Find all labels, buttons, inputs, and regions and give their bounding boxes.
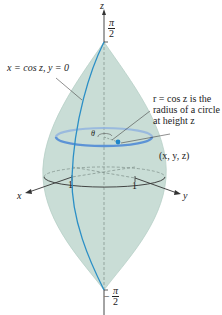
x-axis-label: x xyxy=(17,190,21,201)
z-axis-label: z xyxy=(100,0,104,11)
y-tick-label: 1 xyxy=(132,180,137,191)
point-xyz xyxy=(116,140,121,145)
point-annotation: (x, y, z) xyxy=(159,150,189,161)
radius-annotation-line2: radius of a circle xyxy=(153,104,220,115)
radius-annotation-line1: r = cos z is the xyxy=(153,93,211,104)
curve-annotation: x = cos z, y = 0 xyxy=(7,62,69,73)
y-axis-label: y xyxy=(183,190,187,201)
bottom-label-pi-over-2: π 2 xyxy=(112,286,119,307)
surface-body xyxy=(43,42,166,290)
x-axis-arrowhead xyxy=(25,189,32,194)
x-tick-label: 1 xyxy=(68,179,73,190)
y-axis-arrowhead xyxy=(174,190,181,195)
bottom-label-sign: − xyxy=(104,291,110,302)
top-label-pi-over-2: π 2 xyxy=(108,18,115,39)
radius-annotation-line3: at height z xyxy=(153,115,195,126)
theta-label: θ xyxy=(91,128,95,139)
